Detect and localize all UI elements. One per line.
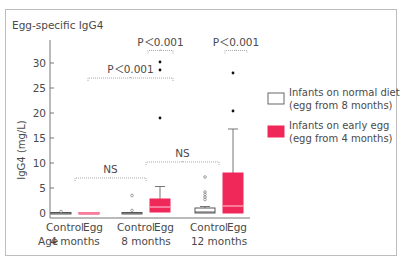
significance-label: NS bbox=[175, 147, 190, 159]
outlier-point bbox=[204, 176, 207, 179]
x-label-egg: Egg bbox=[83, 221, 103, 233]
significance-bracket bbox=[75, 176, 146, 181]
y-tick-label: 10 bbox=[33, 157, 46, 169]
y-tick-label: 5 bbox=[39, 182, 46, 194]
box bbox=[150, 199, 170, 212]
significance-bracket bbox=[148, 49, 173, 54]
box bbox=[223, 173, 243, 213]
y-tick-label: 0 bbox=[39, 207, 46, 219]
chart-title: Egg-specific IgG4 bbox=[12, 19, 104, 31]
y-axis-label: IgG4 (mg/L) bbox=[16, 120, 27, 180]
y-tick-label: 25 bbox=[33, 82, 46, 94]
legend-note: (egg from 8 months) bbox=[289, 100, 393, 111]
outlier-point bbox=[232, 110, 235, 113]
legend-note: (egg from 4 months) bbox=[289, 133, 393, 144]
significance-label: P＜0.001 bbox=[137, 36, 183, 48]
x-label-control: Control bbox=[190, 221, 228, 233]
outlier-point bbox=[131, 209, 134, 212]
outlier-point bbox=[159, 61, 162, 64]
x-label-egg: Egg bbox=[154, 221, 174, 233]
legend-swatch bbox=[268, 126, 284, 137]
significance-bracket bbox=[88, 76, 173, 81]
outlier-point bbox=[60, 210, 63, 213]
outlier-point bbox=[204, 191, 207, 194]
x-label-egg: Egg bbox=[227, 221, 247, 233]
significance-label: P＜0.001 bbox=[213, 36, 259, 48]
significance-label: NS bbox=[103, 163, 118, 175]
boxplot-chart: Egg-specific IgG4 IgG4 (mg/L) 0510152025… bbox=[0, 0, 402, 264]
x-label-control: Control bbox=[46, 221, 84, 233]
outlier-point bbox=[232, 72, 235, 75]
y-tick-label: 15 bbox=[33, 132, 46, 144]
y-tick-label: 20 bbox=[33, 107, 46, 119]
x-axis-prefix: Age bbox=[38, 235, 58, 247]
outlier-point bbox=[159, 69, 162, 72]
legend-label: Infants on normal diet bbox=[289, 87, 400, 98]
x-label-control: Control bbox=[117, 221, 155, 233]
y-tick-label: 30 bbox=[33, 57, 46, 69]
legend-swatch bbox=[268, 93, 284, 104]
legend-label: Infants on early egg bbox=[289, 120, 389, 131]
outlier-point bbox=[159, 117, 162, 120]
outlier-point bbox=[131, 194, 134, 197]
significance-label: P＜0.001 bbox=[107, 63, 153, 75]
significance-bracket bbox=[225, 49, 247, 54]
x-label-age: 12 months bbox=[191, 235, 247, 247]
significance-bracket bbox=[146, 160, 219, 165]
x-label-age: 8 months bbox=[121, 235, 171, 247]
